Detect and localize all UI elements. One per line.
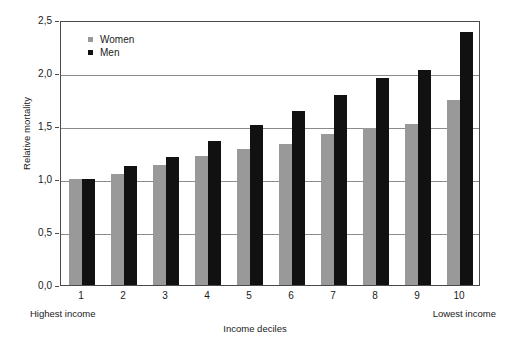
bar-men-decile-4 <box>208 141 221 285</box>
bar-men-decile-7 <box>334 95 347 285</box>
bar-women-decile-10 <box>447 100 460 286</box>
bar-women-decile-4 <box>195 156 208 285</box>
bar-men-decile-5 <box>250 125 263 285</box>
x-tick-label-1: 1 <box>59 290 103 301</box>
y-tick-mark <box>55 21 59 22</box>
legend-item-women: Women <box>88 33 134 46</box>
bar-men-decile-9 <box>418 70 431 285</box>
bar-women-decile-7 <box>321 134 334 285</box>
bar-men-decile-6 <box>292 111 305 285</box>
x-tick-label-6: 6 <box>269 290 313 301</box>
x-tick-label-10: 10 <box>437 290 481 301</box>
bar-women-decile-1 <box>69 179 82 285</box>
x-tick-label-4: 4 <box>185 290 229 301</box>
relative-mortality-bar-chart: Relative mortality 0,00,51,01,52,02,5 12… <box>0 0 510 340</box>
legend-item-men: Men <box>88 46 134 59</box>
bar-women-decile-5 <box>237 149 250 285</box>
bar-men-decile-8 <box>376 78 389 285</box>
bars-layer <box>61 22 479 285</box>
y-tick-mark <box>55 180 59 181</box>
y-tick-label: 0,0 <box>18 281 52 291</box>
y-tick-mark <box>55 127 59 128</box>
y-tick-mark <box>55 233 59 234</box>
x-tick-label-7: 7 <box>311 290 355 301</box>
bar-men-decile-1 <box>82 179 95 285</box>
x-tick-label-3: 3 <box>143 290 187 301</box>
legend-label: Men <box>100 48 119 58</box>
y-tick-label: 1,5 <box>18 122 52 132</box>
y-tick-label: 1,0 <box>18 175 52 185</box>
y-tick-mark <box>55 286 59 287</box>
plot-area <box>60 21 480 286</box>
y-tick-label: 2,5 <box>18 16 52 26</box>
bar-women-decile-2 <box>111 174 124 285</box>
bar-women-decile-8 <box>363 128 376 285</box>
bar-men-decile-2 <box>124 166 137 285</box>
x-tick-label-9: 9 <box>395 290 439 301</box>
y-tick-mark <box>55 74 59 75</box>
legend-label: Women <box>100 35 134 45</box>
x-axis-title: Income deciles <box>0 323 510 334</box>
bar-women-decile-6 <box>279 144 292 285</box>
y-tick-label: 2,0 <box>18 69 52 79</box>
legend-swatch-icon <box>88 50 93 55</box>
legend-swatch-icon <box>88 37 93 42</box>
x-tick-label-8: 8 <box>353 290 397 301</box>
bar-women-decile-9 <box>405 124 418 285</box>
bar-men-decile-10 <box>460 32 473 285</box>
bar-women-decile-3 <box>153 165 166 285</box>
x-tick-label-5: 5 <box>227 290 271 301</box>
y-tick-label: 0,5 <box>18 228 52 238</box>
legend: WomenMen <box>88 33 134 59</box>
x-tick-label-2: 2 <box>101 290 145 301</box>
bar-men-decile-3 <box>166 157 179 285</box>
highest-income-label: Highest income <box>30 308 95 319</box>
lowest-income-label: Lowest income <box>433 308 496 319</box>
